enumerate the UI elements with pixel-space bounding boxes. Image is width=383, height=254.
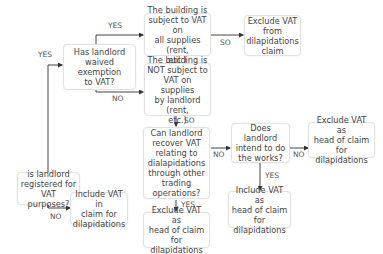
label-no-waived: NO [112, 94, 124, 103]
node-exclude-vat-from-claim: Exclude VAT from dilapidations claim [244, 15, 301, 56]
label-no-intend: NO [293, 150, 305, 159]
label-so-not-subject: SO [184, 116, 195, 125]
label-yes-intend: YES [265, 171, 279, 180]
node-include-vat-in-claim: Include VAT in claim for dilapidations [70, 192, 128, 225]
node-landlord-waived-exemption: Has landlord waived exemption to VAT? [63, 44, 136, 90]
label-so-subject: SO [220, 38, 231, 47]
node-can-recover-vat: Can landlord recover VAT relating to dia… [143, 127, 210, 199]
label-no-registered: NO [50, 212, 62, 221]
node-building-subject-to-vat: The building is subject to VAT on all su… [144, 13, 211, 56]
label-yes-recover: YES [181, 200, 195, 209]
label-yes-waived: YES [108, 21, 122, 30]
label-yes-registered: YES [38, 50, 52, 59]
node-exclude-vat-head-of-claim-yes: Exclude VAT as head of claim for dilapid… [143, 212, 210, 248]
label-no-recover: NO [213, 150, 225, 159]
node-include-vat-head-of-claim: Include VAT as head of claim for dilapid… [228, 191, 291, 228]
node-exclude-vat-head-of-claim-no: Exclude VAT as head of claim for dilapid… [308, 122, 375, 158]
node-building-not-subject-to-vat: The building is NOT subject to VAT on su… [144, 63, 211, 116]
node-intend-to-do-works: Does landlord intend to do the works? [231, 123, 290, 163]
